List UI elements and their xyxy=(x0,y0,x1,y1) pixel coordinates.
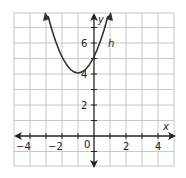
x-tick-label: 2 xyxy=(123,141,129,152)
y-tick-label: 6 xyxy=(81,38,87,49)
origin-label: 0 xyxy=(84,139,90,150)
x-tick-label: −2 xyxy=(48,141,63,152)
y-tick-label: 2 xyxy=(81,100,87,111)
x-tick-label: −4 xyxy=(16,141,31,152)
coordinate-plane: −4 −2 0 2 4 2 4 6 x y h xyxy=(0,0,186,178)
y-axis-label: y xyxy=(97,14,105,25)
curve-label-h: h xyxy=(108,38,114,49)
x-axis-label: x xyxy=(162,121,169,132)
x-tick-label: 4 xyxy=(155,141,161,152)
axes xyxy=(16,15,174,166)
y-tick-label: 4 xyxy=(81,69,87,80)
